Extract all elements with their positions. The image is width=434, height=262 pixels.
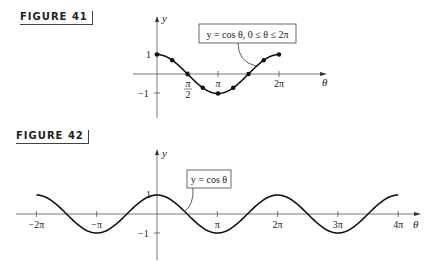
caption-pointer bbox=[184, 188, 193, 212]
caption-text: y = cos θ, 0 ≤ θ ≤ 2π bbox=[206, 29, 288, 40]
figure-42-plot: y θ 1 −1 −2π−ππ2π3π4π y = cos θ bbox=[16, 147, 421, 260]
x-axis-label: θ bbox=[413, 218, 419, 230]
x-tick-label: π bbox=[215, 219, 220, 230]
x-axis-arrow-icon bbox=[414, 212, 421, 216]
x-tick-label: −2π bbox=[29, 219, 45, 230]
figure-41-plot: y θ 1 −1 π 2 π 2π y = cos θ, 0 ≤ θ ≤ 2π bbox=[133, 12, 328, 118]
x-tick-label: 3π bbox=[333, 219, 343, 230]
x-tick-label: 2π bbox=[273, 219, 283, 230]
x-tick-pi: π bbox=[215, 78, 221, 89]
svg-text:π: π bbox=[185, 78, 191, 89]
x-tick-2pi: 2π bbox=[274, 78, 284, 89]
data-point bbox=[216, 91, 220, 95]
caption-text: y = cos θ bbox=[191, 174, 227, 185]
caption-pointer bbox=[238, 43, 256, 66]
y-axis-label: y bbox=[161, 147, 167, 159]
svg-text:2: 2 bbox=[186, 89, 191, 100]
data-point bbox=[201, 86, 205, 90]
x-axis-label: θ bbox=[322, 76, 328, 88]
data-point bbox=[185, 72, 189, 76]
x-tick-pi-over-2: π 2 bbox=[184, 78, 192, 100]
data-point bbox=[277, 52, 281, 56]
y-axis-arrow-icon bbox=[155, 149, 159, 155]
y-axis-arrow-icon bbox=[155, 16, 159, 22]
x-tick-label: 4π bbox=[393, 219, 403, 230]
y-tick-neg1: −1 bbox=[138, 88, 149, 99]
data-point bbox=[170, 58, 174, 62]
figures-canvas: y θ 1 −1 π 2 π 2π y = cos θ, 0 ≤ θ ≤ 2π … bbox=[0, 0, 434, 262]
data-point bbox=[155, 52, 159, 56]
data-point bbox=[262, 58, 266, 62]
y-axis-label: y bbox=[161, 12, 167, 24]
data-point bbox=[246, 72, 250, 76]
x-tick-label: −π bbox=[91, 219, 102, 230]
y-tick-neg1: −1 bbox=[138, 228, 149, 239]
y-tick-1: 1 bbox=[146, 49, 151, 60]
data-point bbox=[231, 86, 235, 90]
